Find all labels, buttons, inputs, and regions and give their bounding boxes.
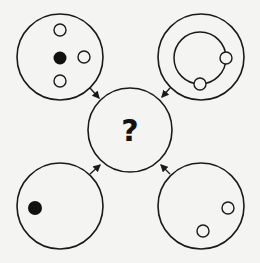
panel-top-left bbox=[17, 14, 103, 100]
panel-bottom-right bbox=[158, 163, 244, 249]
arrow-top-left bbox=[90, 88, 99, 98]
arrow-bottom-right bbox=[161, 165, 170, 174]
arrow-bottom-left bbox=[90, 165, 100, 174]
open-dot bbox=[197, 225, 209, 237]
panel-center: ? bbox=[88, 88, 172, 172]
filled-dot bbox=[28, 201, 42, 215]
open-dot bbox=[78, 51, 90, 63]
panel-top-right bbox=[158, 14, 244, 100]
puzzle-diagram: ? bbox=[0, 0, 260, 263]
filled-dot bbox=[54, 52, 67, 65]
inner-ring bbox=[174, 32, 226, 84]
open-dot bbox=[222, 202, 234, 214]
open-dot bbox=[54, 24, 66, 36]
open-dot bbox=[220, 52, 232, 64]
open-dot bbox=[54, 75, 66, 87]
open-dot bbox=[194, 78, 206, 90]
arrow-top-right bbox=[162, 88, 170, 97]
panel-bottom-left bbox=[17, 163, 103, 249]
question-mark: ? bbox=[121, 113, 138, 148]
